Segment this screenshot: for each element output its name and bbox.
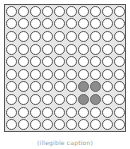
filled-circle bbox=[78, 94, 89, 105]
grid-cell bbox=[5, 93, 17, 106]
grid-cell bbox=[53, 5, 65, 18]
empty-circle bbox=[30, 31, 41, 42]
grid-cell bbox=[77, 55, 89, 68]
empty-circle bbox=[114, 44, 125, 55]
grid-cell bbox=[101, 68, 113, 81]
empty-circle bbox=[54, 69, 65, 80]
empty-circle bbox=[30, 44, 41, 55]
empty-circle bbox=[114, 18, 125, 29]
empty-circle bbox=[102, 69, 113, 80]
empty-circle bbox=[18, 31, 29, 42]
grid-cell bbox=[17, 18, 29, 31]
grid-cell bbox=[113, 55, 125, 68]
empty-circle bbox=[66, 31, 77, 42]
grid-cell bbox=[53, 55, 65, 68]
grid-cell bbox=[89, 93, 101, 106]
grid-cell bbox=[113, 30, 125, 43]
grid-cell bbox=[65, 81, 77, 94]
grid-cell bbox=[101, 81, 113, 94]
empty-circle bbox=[42, 44, 53, 55]
grid-cell bbox=[5, 18, 17, 31]
grid-cell bbox=[77, 106, 89, 119]
empty-circle bbox=[54, 56, 65, 67]
grid-cell bbox=[17, 55, 29, 68]
grid-cell bbox=[89, 43, 101, 56]
empty-circle bbox=[102, 119, 113, 130]
grid-cell bbox=[41, 5, 53, 18]
grid-cell bbox=[29, 93, 41, 106]
empty-circle bbox=[30, 56, 41, 67]
grid-cell bbox=[113, 106, 125, 119]
grid-cell bbox=[53, 93, 65, 106]
grid-cell bbox=[53, 43, 65, 56]
filled-circle bbox=[90, 94, 101, 105]
empty-circle bbox=[78, 107, 89, 118]
empty-circle bbox=[66, 81, 77, 92]
empty-circle bbox=[30, 18, 41, 29]
grid-cell bbox=[17, 106, 29, 119]
empty-circle bbox=[18, 81, 29, 92]
empty-circle bbox=[90, 18, 101, 29]
caption: (illegible caption) bbox=[0, 139, 130, 146]
empty-circle bbox=[54, 107, 65, 118]
empty-circle bbox=[6, 81, 17, 92]
grid-cell bbox=[17, 81, 29, 94]
empty-circle bbox=[114, 31, 125, 42]
empty-circle bbox=[114, 69, 125, 80]
empty-circle bbox=[30, 6, 41, 17]
grid-cell bbox=[77, 118, 89, 131]
grid-cell bbox=[77, 93, 89, 106]
circle-grid bbox=[4, 4, 126, 132]
empty-circle bbox=[54, 44, 65, 55]
empty-circle bbox=[66, 69, 77, 80]
grid-cell bbox=[89, 30, 101, 43]
grid-cell bbox=[101, 43, 113, 56]
empty-circle bbox=[42, 119, 53, 130]
empty-circle bbox=[114, 56, 125, 67]
empty-circle bbox=[18, 18, 29, 29]
grid-cell bbox=[17, 93, 29, 106]
empty-circle bbox=[6, 31, 17, 42]
empty-circle bbox=[6, 107, 17, 118]
empty-circle bbox=[90, 44, 101, 55]
empty-circle bbox=[6, 6, 17, 17]
grid-cell bbox=[77, 5, 89, 18]
grid-cell bbox=[29, 68, 41, 81]
empty-circle bbox=[114, 107, 125, 118]
empty-circle bbox=[18, 6, 29, 17]
grid-cell bbox=[5, 43, 17, 56]
empty-circle bbox=[78, 31, 89, 42]
grid-cell bbox=[5, 68, 17, 81]
empty-circle bbox=[6, 119, 17, 130]
empty-circle bbox=[66, 44, 77, 55]
empty-circle bbox=[78, 6, 89, 17]
grid-cell bbox=[53, 68, 65, 81]
empty-circle bbox=[30, 94, 41, 105]
grid-cell bbox=[53, 30, 65, 43]
empty-circle bbox=[54, 119, 65, 130]
empty-circle bbox=[90, 69, 101, 80]
empty-circle bbox=[42, 56, 53, 67]
empty-circle bbox=[78, 18, 89, 29]
empty-circle bbox=[90, 6, 101, 17]
empty-circle bbox=[30, 69, 41, 80]
grid-cell bbox=[77, 43, 89, 56]
grid-cell bbox=[65, 43, 77, 56]
grid-cell bbox=[5, 81, 17, 94]
grid-cell bbox=[17, 68, 29, 81]
empty-circle bbox=[42, 94, 53, 105]
empty-circle bbox=[42, 6, 53, 17]
grid-cell bbox=[41, 106, 53, 119]
empty-circle bbox=[78, 119, 89, 130]
grid-cell bbox=[89, 118, 101, 131]
grid-cell bbox=[41, 118, 53, 131]
grid-cell bbox=[29, 30, 41, 43]
grid-cell bbox=[113, 68, 125, 81]
grid-cell bbox=[65, 93, 77, 106]
empty-circle bbox=[114, 6, 125, 17]
empty-circle bbox=[102, 44, 113, 55]
grid-cell bbox=[113, 93, 125, 106]
grid-cell bbox=[77, 18, 89, 31]
grid-cell bbox=[113, 5, 125, 18]
grid-cell bbox=[41, 30, 53, 43]
